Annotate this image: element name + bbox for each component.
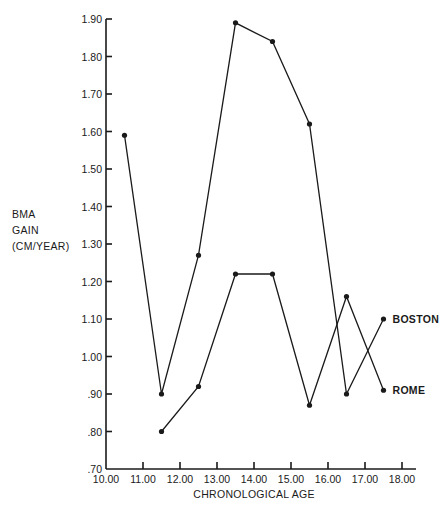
y-tick-label: 1.40 <box>82 201 103 213</box>
y-axis: .70.80.901.001.101.201.301.401.501.601.7… <box>82 13 112 475</box>
data-point <box>270 271 275 276</box>
data-point <box>381 388 386 393</box>
y-tick-label: 1.60 <box>82 126 103 138</box>
x-tick-label: 17.00 <box>352 473 378 485</box>
series-label: BOSTON <box>393 313 440 325</box>
x-tick-label: 14.00 <box>241 473 267 485</box>
data-point <box>159 429 164 434</box>
y-tick-label: 1.30 <box>82 238 103 250</box>
series-boston: BOSTON <box>122 20 439 396</box>
x-tick-label: 18.00 <box>389 473 415 485</box>
data-point <box>159 391 164 396</box>
series-rome: ROME <box>159 271 425 434</box>
x-tick-label: 10.00 <box>93 473 119 485</box>
y-axis-title: BMAGAIN(CM/YEAR) <box>12 208 70 252</box>
x-tick-label: 12.00 <box>167 473 193 485</box>
x-axis: 10.0011.0012.0013.0014.0015.0016.0017.00… <box>93 462 416 485</box>
y-tick-label: 1.00 <box>82 351 103 363</box>
data-point <box>270 39 275 44</box>
y-axis-title-line: BMA <box>12 208 36 220</box>
data-point <box>307 121 312 126</box>
line-chart: .70.80.901.001.101.201.301.401.501.601.7… <box>0 0 443 514</box>
x-tick-label: 16.00 <box>315 473 341 485</box>
data-point <box>196 384 201 389</box>
data-point <box>344 391 349 396</box>
series-line <box>125 23 384 394</box>
data-point <box>344 294 349 299</box>
data-point <box>233 20 238 25</box>
data-point <box>381 316 386 321</box>
y-axis-title-line: (CM/YEAR) <box>12 240 70 252</box>
series-group: BOSTONROME <box>122 20 439 434</box>
x-tick-label: 11.00 <box>130 473 156 485</box>
x-axis-title: CHRONOLOGICAL AGE <box>193 488 314 500</box>
y-axis-title-line: GAIN <box>12 224 39 236</box>
data-point <box>233 271 238 276</box>
data-point <box>307 403 312 408</box>
x-tick-label: 13.00 <box>204 473 230 485</box>
series-label: ROME <box>393 384 426 396</box>
y-tick-label: 1.10 <box>82 313 103 325</box>
x-tick-label: 15.00 <box>278 473 304 485</box>
data-point <box>122 133 127 138</box>
y-tick-label: 1.20 <box>82 276 103 288</box>
y-tick-label: 1.80 <box>82 51 103 63</box>
data-point <box>196 253 201 258</box>
y-tick-label: 1.90 <box>82 13 103 25</box>
y-tick-label: .90 <box>87 388 102 400</box>
y-tick-label: .80 <box>87 426 102 438</box>
y-tick-label: 1.50 <box>82 163 103 175</box>
series-line <box>162 274 384 432</box>
y-tick-label: 1.70 <box>82 88 103 100</box>
